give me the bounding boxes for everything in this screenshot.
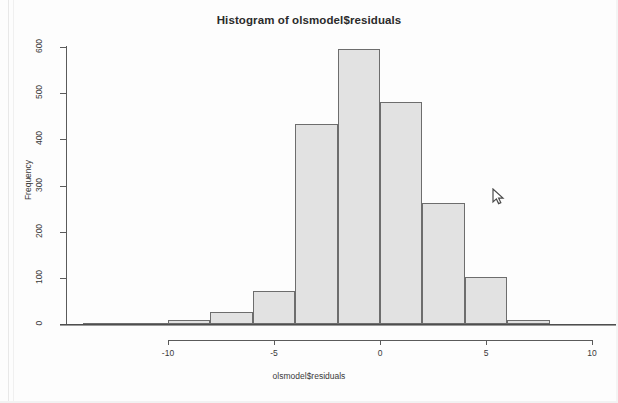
- y-axis-tick: [60, 186, 66, 187]
- y-axis-line: [66, 46, 67, 325]
- x-axis-tick-label: 10: [577, 348, 607, 358]
- x-axis-tick: [168, 340, 169, 345]
- y-axis-tick: [60, 47, 66, 48]
- y-axis-tick-label: 500: [34, 75, 44, 109]
- y-axis-label: Frequency: [23, 150, 33, 210]
- y-axis-tick-label: 300: [34, 168, 44, 202]
- y-axis-tick: [60, 232, 66, 233]
- plot-canvas: Histogram of olsmodel$residuals 01002003…: [0, 0, 618, 403]
- histogram-bar: [422, 203, 464, 324]
- x-axis-label: olsmodel$residuals: [0, 371, 618, 381]
- y-axis-tick-label: 400: [34, 121, 44, 155]
- x-axis-tick: [486, 340, 487, 345]
- x-axis-tick: [380, 340, 381, 345]
- histogram-bar: [295, 124, 337, 324]
- y-axis-tick: [60, 278, 66, 279]
- histogram-bar: [338, 49, 380, 324]
- x-axis-tick-label: -10: [153, 348, 183, 358]
- x-axis-tick: [592, 340, 593, 345]
- histogram-bar: [380, 102, 422, 324]
- histogram-bar: [210, 312, 252, 324]
- y-axis-tick-label: 200: [34, 214, 44, 248]
- histogram-bars: [0, 0, 618, 403]
- x-axis-tick-label: 5: [471, 348, 501, 358]
- y-axis-tick-label: 100: [34, 260, 44, 294]
- histogram-plot: 0100200300400500600 Frequency -10-50510 …: [0, 0, 618, 403]
- x-axis-tick-label: -5: [259, 348, 289, 358]
- y-axis-tick: [60, 139, 66, 140]
- histogram-bar: [465, 277, 507, 324]
- x-axis-tick: [274, 340, 275, 345]
- plot-baseline-shadow: [60, 325, 616, 326]
- x-axis-tick-label: 0: [365, 348, 395, 358]
- y-axis-tick-label: 0: [34, 306, 44, 340]
- histogram-bar: [253, 291, 295, 324]
- y-axis-tick-label: 600: [34, 29, 44, 63]
- y-axis-tick: [60, 93, 66, 94]
